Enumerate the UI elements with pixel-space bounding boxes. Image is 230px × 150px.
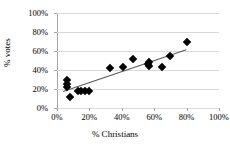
scatter-chart: % votes 0%20%40%60%80%100% 0%20%40%60%80… [0,0,230,150]
y-axis-label: 20% [0,85,48,94]
data-point [182,38,190,46]
gridline [57,51,219,52]
x-tick [187,108,188,111]
plot-area [57,13,219,108]
x-axis-label: 0% [42,113,72,122]
y-axis-label: 40% [0,66,48,75]
y-tick [54,13,57,14]
x-tick [89,108,90,111]
y-axis-label: 60% [0,47,48,56]
x-axis-label: 40% [107,113,137,122]
x-axis-label: 80% [172,113,202,122]
y-tick [54,70,57,71]
x-tick [219,108,220,111]
y-tick [54,51,57,52]
gridline [57,13,219,14]
y-axis-label: 100% [0,9,48,18]
x-tick [57,108,58,111]
data-point [129,54,137,62]
x-axis-label: 20% [74,113,104,122]
y-axis-line [57,13,58,108]
y-tick [54,32,57,33]
data-point [85,87,93,95]
y-axis-label: 0% [0,104,48,113]
y-axis-label: 80% [0,28,48,37]
x-axis-label: 60% [139,113,169,122]
y-tick [54,89,57,90]
x-tick [122,108,123,111]
gridline [57,70,219,71]
x-axis-title: % Christians [0,130,230,139]
x-axis-label: 100% [204,113,230,122]
y-tick [54,108,57,109]
x-tick [154,108,155,111]
data-point [66,92,74,100]
data-point [106,64,114,72]
gridline [57,108,219,109]
gridline [57,32,219,33]
